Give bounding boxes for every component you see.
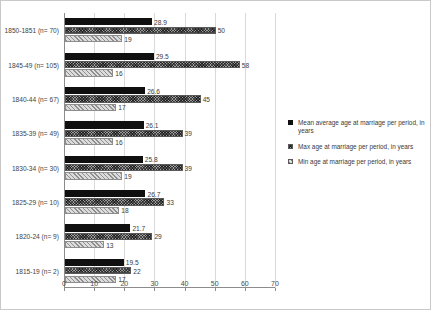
x-axis-tick: [245, 288, 246, 291]
x-axis-tick: [275, 288, 276, 291]
x-axis-tick: [64, 288, 65, 291]
bar-value-label: 29.5: [156, 53, 169, 60]
bar-value-label: 16: [115, 69, 122, 76]
legend-swatch-icon: [288, 159, 293, 164]
bar-value-label: 50: [218, 27, 225, 34]
x-axis-tick: [185, 288, 186, 291]
bar-value-label: 29: [154, 233, 161, 240]
category-label: 1840-44 (n= 67): [1, 95, 59, 102]
bar-value-label: 28.9: [154, 18, 167, 25]
bar-value-label: 18: [121, 207, 128, 214]
bar-value-label: 25.8: [145, 156, 158, 163]
category-label: 1830-34 (n= 30): [1, 164, 59, 171]
category-label: 1815-19 (n= 2): [1, 267, 59, 274]
legend-swatch-icon: [288, 144, 293, 149]
bar-value-label: 39: [185, 164, 192, 171]
category-label: 1825-29 (n= 10): [1, 199, 59, 206]
chart-container: 010203040506070 1850-1851 (n= 70)1845-49…: [0, 0, 431, 310]
bar-value-label: 19: [124, 35, 131, 42]
legend-label: Mean average age at marriage per period,…: [298, 119, 424, 134]
legend-item-mean[interactable]: Mean average age at marriage per period,…: [288, 119, 426, 136]
category-label: 1835-39 (n= 49): [1, 130, 59, 137]
legend-item-max[interactable]: Max age at marriage per period, in years: [288, 143, 426, 151]
bar-value-label: 22: [133, 267, 140, 274]
x-axis-tick: [154, 288, 155, 291]
chart-legend: Mean average age at marriage per period,…: [288, 119, 426, 174]
legend-label: Max age at marriage per period, in years: [298, 143, 413, 150]
legend-item-min[interactable]: Min age at marriage per period, in years: [288, 158, 426, 166]
legend-label: Min age at marriage per period, in years: [298, 158, 411, 165]
bar-value-label: 26.6: [147, 87, 160, 94]
category-label: 1820-24 (n= 9): [1, 233, 59, 240]
bar-value-label: 45: [203, 95, 210, 102]
x-axis-tick: [215, 288, 216, 291]
bar-value-label: 33: [166, 199, 173, 206]
legend-swatch-icon: [288, 120, 293, 125]
bar-value-label: 39: [185, 130, 192, 137]
bar-value-label: 19.5: [126, 259, 139, 266]
bar-value-label: 17: [118, 104, 125, 111]
bar-value-label: 16: [115, 138, 122, 145]
bar-value-label: 21.7: [132, 225, 145, 232]
bar-value-label: 17: [118, 276, 125, 283]
bar-value-label: 26.1: [146, 121, 159, 128]
bar-value-label: 19: [124, 173, 131, 180]
x-axis-tick: [94, 288, 95, 291]
category-label: 1845-49 (n= 105): [1, 61, 59, 68]
bar-value-label: 26.7: [147, 190, 160, 197]
x-axis-tick: [124, 288, 125, 291]
category-label: 1850-1851 (n= 70): [1, 27, 59, 34]
bar-value-label: 58: [242, 61, 249, 68]
bar-value-label: 13: [106, 241, 113, 248]
